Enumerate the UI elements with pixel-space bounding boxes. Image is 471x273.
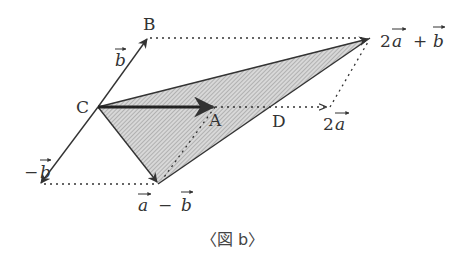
shaded-triangle bbox=[98, 38, 370, 184]
svg-text:a: a bbox=[138, 195, 148, 215]
svg-text:a: a bbox=[392, 31, 402, 51]
label-a-minus-b: a − b bbox=[138, 192, 193, 215]
svg-text:−: − bbox=[158, 195, 172, 215]
label-2a: 2 a bbox=[323, 113, 349, 134]
label-C: C bbox=[76, 97, 89, 117]
svg-text:b: b bbox=[40, 162, 51, 182]
label-A: A bbox=[208, 110, 222, 130]
label-D: D bbox=[272, 111, 286, 131]
figure-caption: 〈図 b〉 bbox=[201, 230, 264, 249]
svg-text:−: − bbox=[24, 162, 38, 182]
svg-text:b: b bbox=[181, 195, 192, 215]
label-vec-b: b bbox=[115, 49, 126, 70]
svg-text:2: 2 bbox=[380, 31, 391, 51]
vector-diagram: C B A D b − b 2 a + b 2 a a − b 〈図 b〉 bbox=[0, 0, 471, 273]
svg-text:2: 2 bbox=[323, 114, 334, 134]
svg-text:b: b bbox=[115, 50, 126, 70]
label-2a-plus-b: 2 a + b bbox=[380, 27, 445, 51]
svg-text:b: b bbox=[433, 31, 444, 51]
label-vec-minus-b: − b bbox=[24, 160, 51, 182]
svg-text:a: a bbox=[335, 114, 345, 134]
svg-text:+: + bbox=[413, 31, 427, 51]
label-B: B bbox=[143, 14, 156, 34]
